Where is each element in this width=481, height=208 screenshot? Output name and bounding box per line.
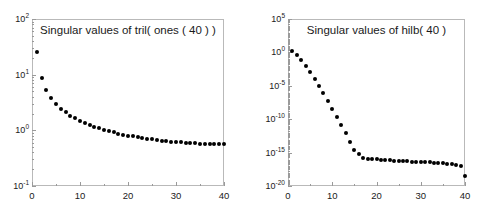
ytick-mark-minor bbox=[32, 104, 34, 105]
ytick-mark-major bbox=[32, 19, 36, 20]
data-point bbox=[188, 141, 192, 145]
data-point bbox=[145, 137, 149, 141]
data-point bbox=[131, 134, 135, 138]
data-point bbox=[184, 141, 188, 145]
data-point bbox=[164, 139, 168, 143]
xtick-mark-minor bbox=[399, 184, 400, 186]
xtick-label-hilb-40-10: 10 bbox=[327, 190, 338, 201]
ytick-mark-minor bbox=[32, 91, 34, 92]
data-point bbox=[428, 160, 432, 164]
ytick-mark-minor bbox=[288, 66, 290, 67]
data-point bbox=[212, 142, 216, 146]
ytick-mark-minor bbox=[288, 126, 290, 127]
ytick-mark-minor bbox=[288, 120, 290, 121]
xtick-mark-minor bbox=[152, 184, 153, 186]
xtick-mark-major bbox=[80, 182, 81, 186]
ytick-mark-minor bbox=[288, 33, 290, 34]
ytick-mark-minor bbox=[288, 180, 290, 181]
ytick-mark-minor bbox=[288, 64, 290, 65]
data-point bbox=[73, 116, 77, 120]
ytick-mark-minor bbox=[32, 24, 34, 25]
data-point bbox=[423, 160, 427, 164]
data-point bbox=[92, 125, 96, 129]
xtick-label-hilb-40-40: 40 bbox=[460, 190, 471, 201]
data-point bbox=[436, 161, 440, 165]
xtick-mark-minor bbox=[310, 184, 311, 186]
data-point bbox=[308, 70, 312, 74]
data-point bbox=[49, 96, 53, 100]
ytick-mark-minor bbox=[288, 117, 290, 118]
xtick-mark-major bbox=[224, 182, 225, 186]
ytick-mark-minor bbox=[288, 146, 290, 147]
data-point bbox=[140, 136, 144, 140]
ytick-mark-minor bbox=[32, 31, 34, 32]
xtick-mark-major bbox=[377, 182, 378, 186]
data-point bbox=[198, 142, 202, 146]
ytick-label-hilb-40--15: 10-15 bbox=[257, 148, 285, 158]
ytick-mark-minor bbox=[288, 151, 290, 152]
data-point bbox=[441, 161, 445, 165]
ytick-mark-minor bbox=[288, 177, 290, 178]
ytick-mark-minor bbox=[288, 30, 290, 31]
data-point bbox=[155, 138, 159, 142]
ytick-mark-major bbox=[32, 186, 36, 187]
ytick-mark-minor bbox=[288, 166, 290, 167]
ytick-mark-minor bbox=[288, 77, 290, 78]
ytick-mark-minor bbox=[32, 87, 34, 88]
ytick-mark-minor bbox=[288, 97, 290, 98]
data-point bbox=[203, 142, 207, 146]
ytick-mark-minor bbox=[288, 19, 290, 20]
xtick-label-hilb-40-0: 0 bbox=[285, 190, 290, 201]
data-point bbox=[344, 131, 348, 135]
data-point bbox=[321, 91, 325, 95]
ytick-mark-minor bbox=[32, 159, 34, 160]
data-point bbox=[193, 141, 197, 145]
xtick-label-tril-ones-40-20: 20 bbox=[123, 190, 134, 201]
ytick-mark-minor bbox=[288, 26, 290, 27]
data-point bbox=[459, 164, 463, 168]
data-point bbox=[392, 159, 396, 163]
ytick-mark-minor bbox=[288, 84, 290, 85]
xtick-mark-major bbox=[332, 182, 333, 186]
xtick-label-tril-ones-40-40: 40 bbox=[219, 190, 230, 201]
xtick-mark-major bbox=[288, 182, 289, 186]
ytick-mark-minor bbox=[288, 144, 290, 145]
data-point bbox=[160, 139, 164, 143]
xtick-mark-major bbox=[421, 182, 422, 186]
data-point bbox=[35, 50, 39, 54]
ytick-mark-minor bbox=[32, 97, 34, 98]
ytick-mark-minor bbox=[32, 152, 34, 153]
data-point bbox=[126, 134, 130, 138]
data-point bbox=[330, 107, 334, 111]
ytick-mark-minor bbox=[32, 83, 34, 84]
ytick-mark-minor bbox=[288, 39, 290, 40]
ytick-mark-minor bbox=[288, 157, 290, 158]
data-point bbox=[88, 123, 92, 127]
data-point bbox=[97, 126, 101, 130]
data-point bbox=[290, 49, 294, 53]
ytick-mark-minor bbox=[288, 37, 290, 38]
data-point bbox=[370, 157, 374, 161]
data-point bbox=[150, 137, 154, 141]
data-point bbox=[179, 140, 183, 144]
ytick-mark-minor bbox=[32, 136, 34, 137]
ytick-mark-minor bbox=[288, 124, 290, 125]
figure-container: Singular values of tril( ones ( 40 ) ) 1… bbox=[0, 0, 481, 208]
ytick-mark-minor bbox=[32, 36, 34, 37]
data-point bbox=[352, 148, 356, 152]
ytick-mark-minor bbox=[32, 28, 34, 29]
ytick-mark-minor bbox=[288, 46, 290, 47]
ytick-mark-minor bbox=[32, 114, 34, 115]
data-point bbox=[339, 123, 343, 127]
data-point bbox=[326, 99, 330, 103]
ytick-mark-minor bbox=[288, 44, 290, 45]
data-point bbox=[450, 162, 454, 166]
ytick-mark-major bbox=[32, 130, 36, 131]
data-point bbox=[78, 119, 82, 123]
ytick-mark-minor bbox=[32, 147, 34, 148]
plot-title-tril-ones: Singular values of tril( ones ( 40 ) ) bbox=[32, 24, 224, 36]
data-point bbox=[317, 84, 321, 88]
data-point bbox=[54, 102, 58, 106]
data-point bbox=[136, 135, 140, 139]
ytick-mark-minor bbox=[32, 22, 34, 23]
